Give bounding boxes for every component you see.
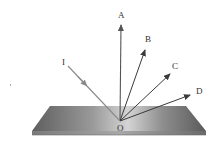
incident-ray-arrow-icon (78, 77, 85, 84)
reflection-diagram: A B C D I O (0, 0, 215, 143)
label-d: D (196, 86, 203, 96)
label-c: C (172, 61, 178, 71)
stray-mark (10, 84, 11, 86)
label-a: A (118, 10, 125, 20)
label-o: O (117, 123, 124, 133)
label-i: I (62, 57, 65, 67)
label-b: B (145, 34, 151, 44)
